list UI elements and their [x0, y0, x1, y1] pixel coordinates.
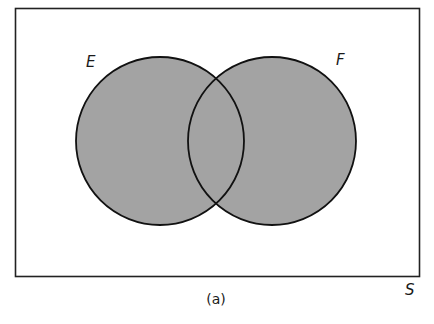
universe-label: S: [405, 281, 415, 299]
venn-diagram: E F S (a): [0, 0, 434, 324]
set-f-label: F: [336, 51, 345, 69]
union-fill: [76, 57, 356, 225]
set-e-label: E: [86, 53, 96, 71]
figure-caption: (a): [206, 291, 226, 307]
